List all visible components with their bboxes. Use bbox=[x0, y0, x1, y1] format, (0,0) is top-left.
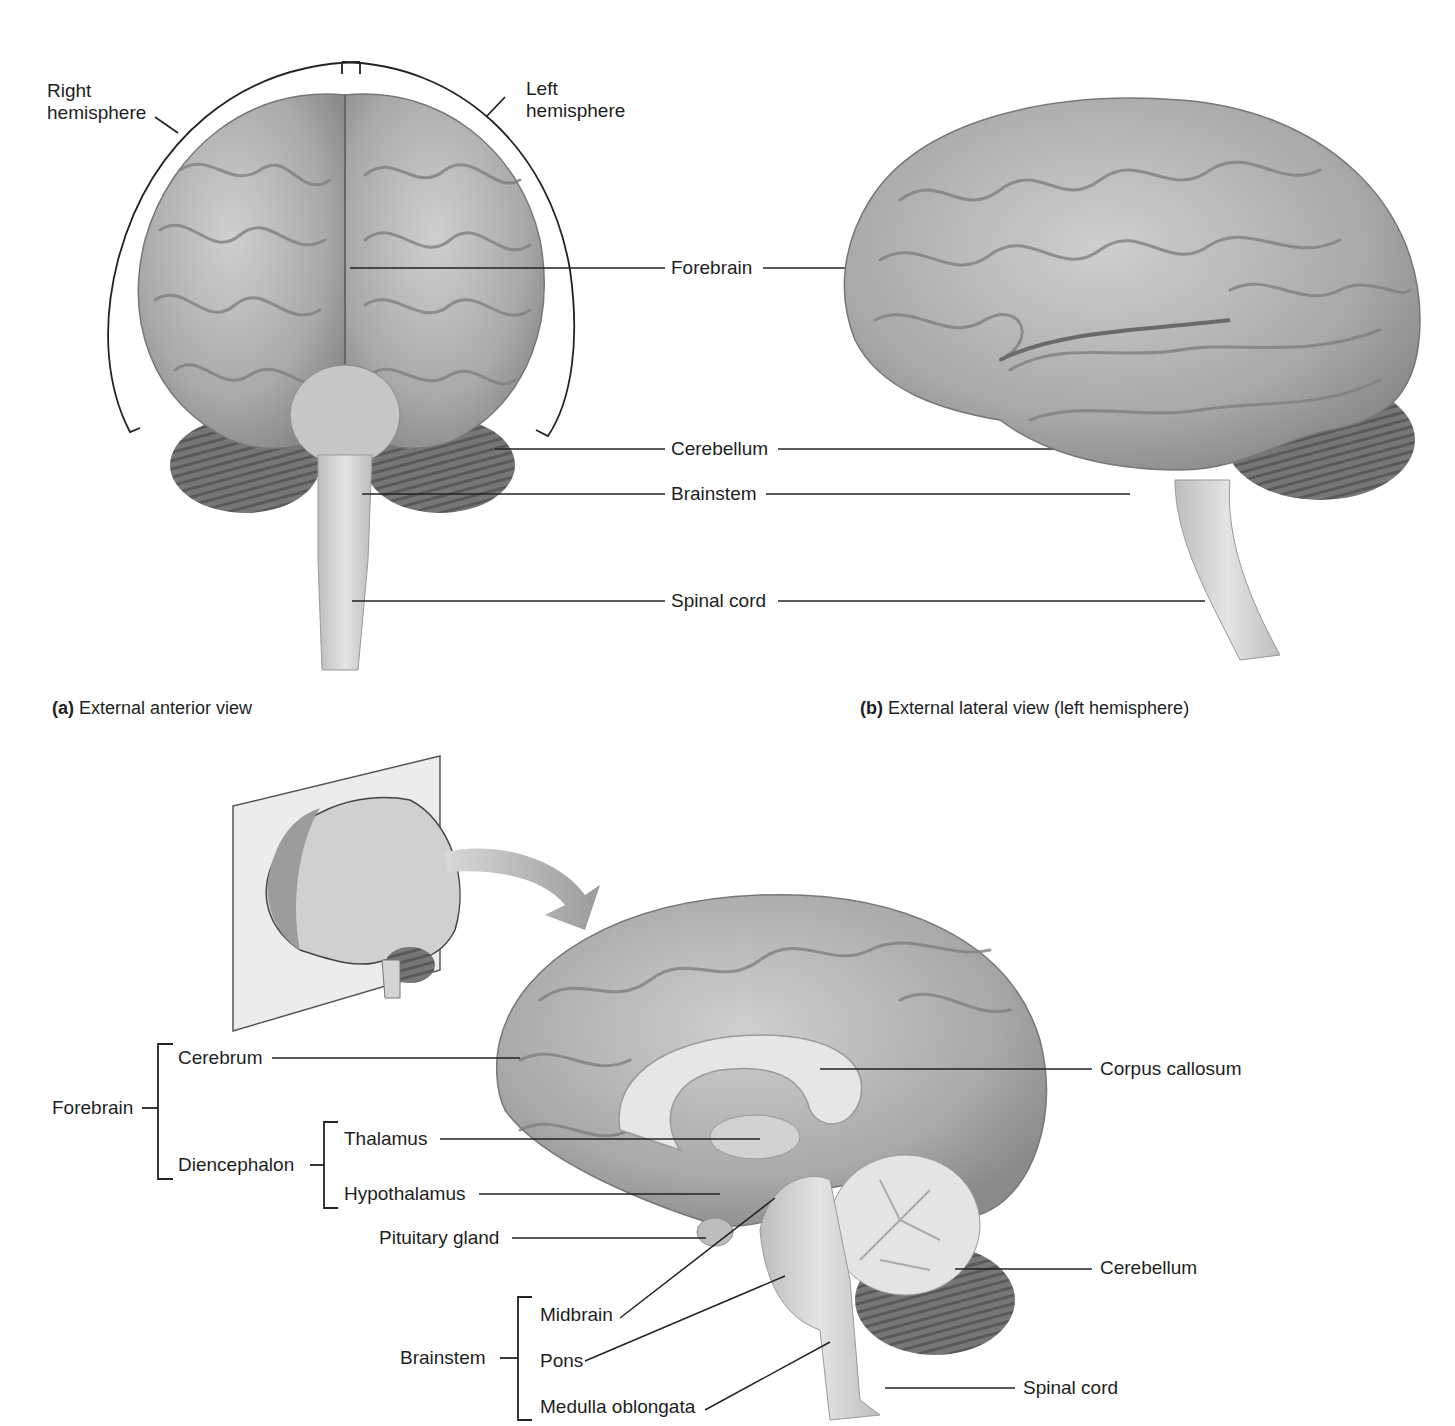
label-cerebellum: Cerebellum bbox=[671, 438, 768, 460]
anterior-brain-illustration bbox=[138, 94, 544, 670]
label-spinal-cord: Spinal cord bbox=[671, 590, 766, 612]
label-forebrain: Forebrain bbox=[671, 257, 752, 279]
label-right-hemisphere-line2: hemisphere bbox=[47, 102, 146, 124]
label-cerebellum-sagittal: Cerebellum bbox=[1100, 1257, 1197, 1279]
sagittal-brain-illustration bbox=[497, 895, 1047, 1420]
group-diencephalon: Diencephalon bbox=[178, 1154, 294, 1176]
label-cerebrum: Cerebrum bbox=[178, 1047, 262, 1069]
label-left-hemisphere-line1: Left bbox=[526, 78, 558, 100]
label-left-hemisphere-line2: hemisphere bbox=[526, 100, 625, 122]
label-corpus-callosum: Corpus callosum bbox=[1100, 1058, 1242, 1080]
curved-arrow bbox=[445, 849, 600, 930]
label-thalamus: Thalamus bbox=[344, 1128, 427, 1150]
label-medulla-oblongata: Medulla oblongata bbox=[540, 1396, 695, 1418]
lateral-brain-illustration bbox=[844, 98, 1420, 660]
group-brainstem: Brainstem bbox=[400, 1347, 486, 1369]
caption-b-text: External lateral view (left hemisphere) bbox=[888, 698, 1189, 718]
group-forebrain: Forebrain bbox=[52, 1097, 133, 1119]
caption-a: (a) External anterior view bbox=[52, 698, 252, 719]
section-plane-inset bbox=[233, 756, 460, 1031]
caption-b-letter: (b) bbox=[860, 698, 883, 718]
label-pons: Pons bbox=[540, 1350, 583, 1372]
label-brainstem: Brainstem bbox=[671, 483, 757, 505]
caption-a-letter: (a) bbox=[52, 698, 74, 718]
label-spinal-cord-sagittal: Spinal cord bbox=[1023, 1377, 1118, 1399]
label-midbrain: Midbrain bbox=[540, 1304, 613, 1326]
label-hypothalamus: Hypothalamus bbox=[344, 1183, 465, 1205]
caption-b: (b) External lateral view (left hemisphe… bbox=[860, 698, 1189, 719]
label-right-hemisphere-line1: Right bbox=[47, 80, 91, 102]
label-pituitary-gland: Pituitary gland bbox=[379, 1227, 499, 1249]
caption-a-text: External anterior view bbox=[79, 698, 252, 718]
